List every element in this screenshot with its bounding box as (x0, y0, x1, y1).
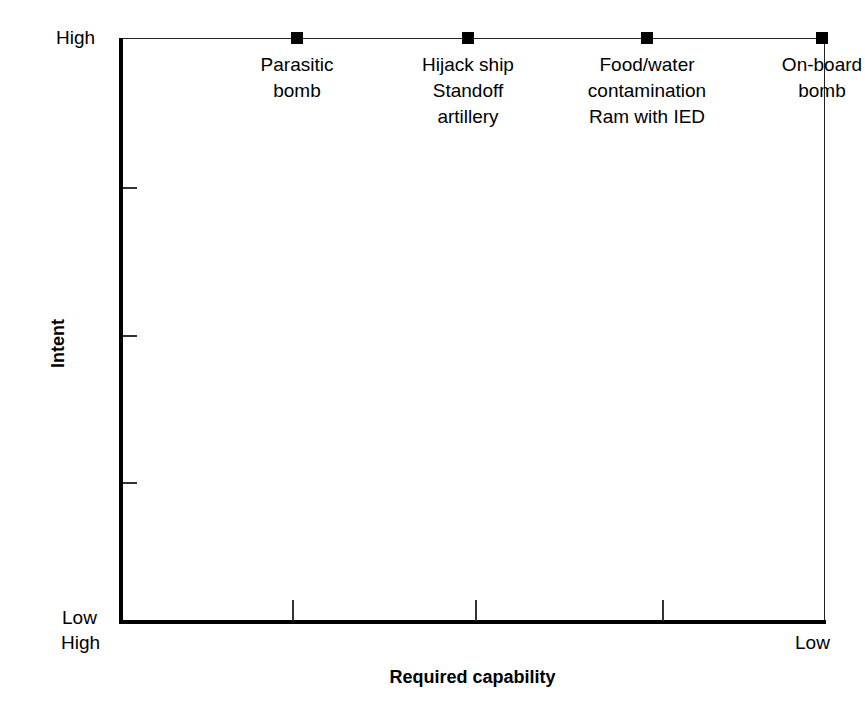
annotation-line: artillery (422, 104, 514, 130)
y-axis-tick (123, 482, 137, 484)
x-axis-tick (292, 600, 294, 621)
y-axis-top-label: High (56, 27, 95, 49)
data-point-marker (816, 32, 828, 44)
x-axis-line (119, 620, 826, 624)
y-axis-title: Intent (48, 284, 69, 404)
annotation-line: Food/water (588, 52, 706, 78)
y-axis-line (119, 38, 123, 624)
x-axis-title: Required capability (120, 667, 825, 688)
annotation-line: On-board (782, 52, 862, 78)
data-point-annotation: Food/watercontaminationRam with IED (588, 52, 706, 130)
annotation-line: Parasitic (261, 52, 334, 78)
x-axis-tick (662, 600, 664, 621)
annotation-line: Hijack ship (422, 52, 514, 78)
plot-frame-right (824, 38, 825, 622)
data-point-marker (291, 32, 303, 44)
data-point-annotation: On-boardbomb (782, 52, 862, 104)
threat-scatter-chart: High Low High Low Intent Required capabi… (0, 0, 865, 719)
annotation-line: contamination (588, 78, 706, 104)
data-point-annotation: Parasiticbomb (261, 52, 334, 104)
annotation-line: Ram with IED (588, 104, 706, 130)
annotation-line: Standoff (422, 78, 514, 104)
x-axis-left-label: High (61, 632, 100, 654)
annotation-line: bomb (261, 78, 334, 104)
data-point-annotation: Hijack shipStandoffartillery (422, 52, 514, 130)
y-axis-tick (123, 187, 137, 189)
data-point-marker (462, 32, 474, 44)
annotation-line: bomb (782, 78, 862, 104)
x-axis-right-label: Low (795, 632, 830, 654)
x-axis-tick (475, 600, 477, 621)
data-point-marker (641, 32, 653, 44)
y-axis-bottom-label: Low (62, 607, 97, 629)
y-axis-tick (123, 335, 137, 337)
